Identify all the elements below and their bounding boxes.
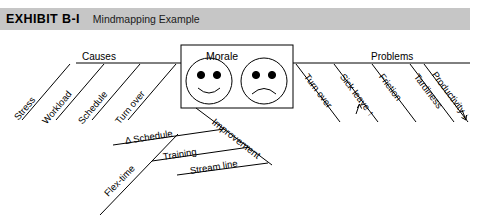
exhibit-number-label: EXHIBIT B-I xyxy=(6,12,80,26)
sad-face-eye-left xyxy=(252,71,259,78)
happy-face-eye-left xyxy=(197,71,204,78)
sad-face-eye-right xyxy=(268,71,275,78)
center-label-morale: Morale xyxy=(206,51,238,62)
exhibit-title: Mindmapping Example xyxy=(93,13,200,25)
rib-flextime xyxy=(100,134,178,215)
branch-label-problems: Problems xyxy=(371,52,413,62)
branch-label-causes: Causes xyxy=(82,52,116,62)
exhibit-header-bar: EXHIBIT B-I Mindmapping Example xyxy=(0,8,470,30)
happy-face-eye-right xyxy=(213,71,220,78)
mindmapping-diagram: Causes Stress Workload Schedule Turn ove… xyxy=(0,30,482,219)
